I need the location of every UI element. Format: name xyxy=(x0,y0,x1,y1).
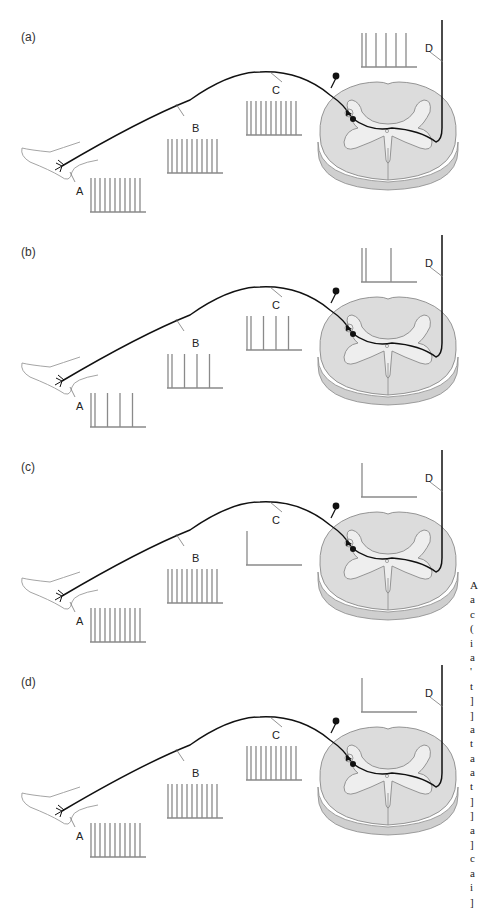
point-label-D: D xyxy=(425,42,433,54)
spike-train-B xyxy=(167,139,223,173)
clipped-caption-text: Aac(ia't]]ataat]]a]cai] xyxy=(470,578,481,909)
point-label-C: C xyxy=(272,729,280,741)
point-label-C: C xyxy=(272,514,280,526)
clipped-text-fragment: a xyxy=(470,592,481,606)
spike-train-A xyxy=(90,823,146,857)
point-label-A: A xyxy=(76,400,83,412)
spike-train-D xyxy=(361,463,417,497)
spike-train-B xyxy=(167,354,223,388)
clipped-text-fragment: a xyxy=(470,751,481,765)
spike-train-D xyxy=(361,678,417,712)
spike-train-B xyxy=(167,784,223,818)
clipped-text-fragment: a xyxy=(470,765,481,779)
spinal-cord-cross-section xyxy=(318,82,458,190)
point-label-C: C xyxy=(272,299,280,311)
point-label-B: B xyxy=(192,552,199,564)
spike-train-A xyxy=(90,178,146,212)
clipped-text-fragment: i xyxy=(470,636,481,650)
spinal-cord-cross-section xyxy=(318,512,458,620)
spike-train-C xyxy=(246,316,302,350)
foot-outline xyxy=(22,572,98,609)
panel-b: (b)ABCD xyxy=(0,215,481,430)
spike-train-C xyxy=(246,531,302,565)
point-label-D: D xyxy=(425,472,433,484)
point-label-B: B xyxy=(192,767,199,779)
point-label-D: D xyxy=(425,257,433,269)
spike-train-A xyxy=(90,393,146,427)
spike-train-D xyxy=(361,248,417,282)
clipped-text-fragment: t xyxy=(470,679,481,693)
panel-label-d: (d) xyxy=(21,675,36,689)
spike-train-B xyxy=(167,569,223,603)
clipped-text-fragment: ] xyxy=(470,794,481,808)
spinal-cord-cross-section xyxy=(318,727,458,835)
clipped-text-fragment: a xyxy=(470,866,481,880)
spike-train-A xyxy=(90,608,146,642)
clipped-text-fragment: ] xyxy=(470,708,481,722)
foot-outline xyxy=(22,142,98,179)
point-label-C: C xyxy=(272,84,280,96)
clipped-text-fragment: c xyxy=(470,607,481,621)
panel-label-c: (c) xyxy=(21,460,35,474)
clipped-text-fragment: i xyxy=(470,880,481,894)
clipped-text-fragment: ] xyxy=(470,808,481,822)
clipped-text-fragment: ] xyxy=(470,895,481,909)
clipped-text-fragment: t xyxy=(470,779,481,793)
clipped-text-fragment: A xyxy=(470,578,481,592)
clipped-text-fragment: ' xyxy=(470,664,481,678)
clipped-text-fragment: t xyxy=(470,736,481,750)
point-label-A: A xyxy=(76,615,83,627)
spike-train-D xyxy=(361,33,417,67)
panel-d: (d)ABCD xyxy=(0,645,481,860)
point-label-A: A xyxy=(76,830,83,842)
clipped-text-fragment: a xyxy=(470,722,481,736)
clipped-text-fragment: a xyxy=(470,650,481,664)
foot-outline xyxy=(22,787,98,824)
panel-c: (c)ABCD xyxy=(0,430,481,645)
panel-a: (a)ABCD xyxy=(0,0,481,215)
clipped-text-fragment: a xyxy=(470,823,481,837)
panel-label-b: (b) xyxy=(21,245,36,259)
clipped-text-fragment: c xyxy=(470,851,481,865)
point-label-B: B xyxy=(192,122,199,134)
clipped-text-fragment: ] xyxy=(470,837,481,851)
panel-label-a: (a) xyxy=(21,30,36,44)
spike-train-C xyxy=(246,746,302,780)
point-label-A: A xyxy=(76,185,83,197)
point-label-D: D xyxy=(425,687,433,699)
point-label-B: B xyxy=(192,337,199,349)
foot-outline xyxy=(22,357,98,394)
clipped-text-fragment: ] xyxy=(470,693,481,707)
clipped-text-fragment: ( xyxy=(470,621,481,635)
spike-train-C xyxy=(246,101,302,135)
spinal-cord-cross-section xyxy=(318,297,458,405)
